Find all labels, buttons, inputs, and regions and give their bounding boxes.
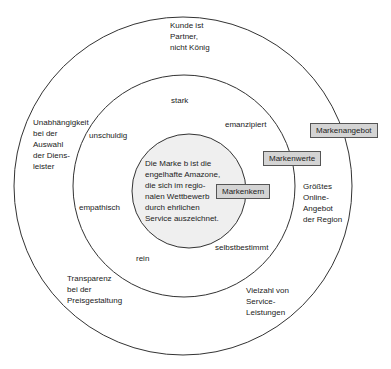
text-line: Transparenz: [67, 273, 122, 284]
middle-label-selbstbestimmt: selbstbestimmt: [215, 242, 268, 253]
outer-label-bottom-left: Transparenz bei der Preisgestaltung: [67, 273, 122, 306]
brand-core-statement: Die Marke b ist die engelhafte Amazone, …: [145, 158, 220, 224]
text-line: Service-: [246, 296, 289, 307]
text-line: der Region: [303, 214, 342, 225]
text-line: Größtes: [303, 181, 342, 192]
tag-markenangebot: Markenangebot: [310, 123, 378, 138]
middle-label-emanzipiert: emanzipiert: [225, 119, 266, 130]
text-line: Die Marke b ist die: [145, 158, 220, 169]
text-line: leister: [33, 161, 89, 172]
text-line: Auswahl: [33, 139, 89, 150]
text-line: der Diens-: [33, 150, 89, 161]
text-line: durch ehrlichen: [145, 202, 220, 213]
middle-label-empathisch: empathisch: [79, 202, 120, 213]
text-line: Angebot: [303, 203, 342, 214]
tag-markenwerte: Markenwerte: [263, 151, 321, 166]
outer-label-left: Unabhängigkeit bei der Auswahl der Diens…: [33, 117, 89, 172]
tag-markenkern: Markenkern: [216, 184, 270, 199]
text-line: Online-: [303, 192, 342, 203]
text-line: Vielzahl von: [246, 285, 289, 296]
text-line: bei der: [33, 128, 89, 139]
middle-label-rein: rein: [136, 253, 149, 264]
outer-label-top: Kunde ist Partner, nicht König: [170, 20, 210, 53]
text-line: engelhafte Amazone,: [145, 169, 220, 180]
text-line: bei der: [67, 284, 122, 295]
text-line: nicht König: [170, 42, 210, 53]
outer-label-bottom-right: Vielzahl von Service- Leistungen: [246, 285, 289, 318]
text-line: Unabhängigkeit: [33, 117, 89, 128]
text-line: Preisgestaltung: [67, 295, 122, 306]
text-line: Partner,: [170, 31, 210, 42]
text-line: Kunde ist: [170, 20, 210, 31]
text-line: Service auszeichnet.: [145, 213, 220, 224]
text-line: die sich im regio-: [145, 180, 220, 191]
outer-label-right: Größtes Online- Angebot der Region: [303, 181, 342, 225]
text-line: Leistungen: [246, 307, 289, 318]
text-line: nalen Wettbewerb: [145, 191, 220, 202]
middle-label-stark: stark: [171, 95, 188, 106]
middle-label-unschuldig: unschuldig: [89, 130, 127, 141]
